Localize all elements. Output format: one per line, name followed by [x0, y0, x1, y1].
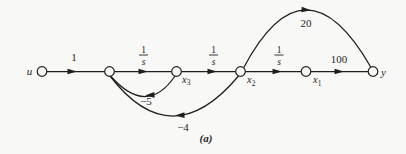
node-u	[37, 67, 47, 77]
fraction-denominator: s	[212, 57, 216, 67]
edge-x3-sum-feedback	[111, 76, 176, 97]
arrowhead-x3-x2	[208, 69, 218, 75]
node-label-x3-subscript: 3	[187, 78, 191, 87]
node-x1	[301, 67, 311, 77]
arrowhead-x1-y	[335, 69, 345, 75]
fraction-numerator: 1	[211, 45, 216, 55]
gain-label-x3-x2: 1 s	[209, 45, 218, 67]
gain-label-sum-x3: 1 s	[139, 45, 148, 67]
node-x2	[236, 67, 246, 77]
gain-label-x2-sum-feedback: −4	[177, 121, 189, 133]
edge-x2-sum-feedback	[110, 76, 239, 116]
signal-flow-graph-figure: 1 1 s 1 s 1 s 100 20 −5 −4 u x3 x2 x1 y	[0, 0, 406, 154]
arrowhead-u-sum	[68, 69, 78, 75]
arrowhead-x2-sum-feedback	[175, 112, 185, 118]
node-label-x2: x2	[246, 74, 256, 88]
arrowhead-x2-y-arc	[301, 7, 311, 13]
gain-label-x3-sum-feedback: −5	[140, 95, 152, 107]
fraction-numerator: 1	[277, 45, 282, 55]
figure-canvas: 1 1 s 1 s 1 s 100 20 −5 −4 u x3 x2 x1 y	[0, 0, 406, 154]
node-label-u: u	[27, 65, 33, 77]
edges	[42, 10, 373, 116]
fraction-denominator: s	[277, 57, 281, 67]
node-sum	[105, 67, 115, 77]
arrowhead-sum-x3	[139, 69, 149, 75]
node-label-y: y	[380, 66, 386, 78]
gain-label-x1-y: 100	[331, 53, 348, 65]
node-label-x3: x3	[181, 74, 191, 88]
arrowhead-x2-x1	[273, 69, 283, 75]
node-label-x2-subscript: 2	[252, 79, 256, 88]
node-x3	[172, 67, 182, 77]
node-labels: u x3 x2 x1 y	[27, 65, 386, 88]
node-label-x1-subscript: 1	[318, 79, 322, 88]
node-y	[368, 67, 378, 77]
gain-label-x2-y-arc: 20	[301, 17, 313, 29]
figure-caption: (a)	[200, 132, 213, 145]
fraction-denominator: s	[142, 57, 146, 67]
node-label-x1: x1	[312, 74, 322, 88]
gain-label-x2-x1: 1 s	[275, 45, 284, 67]
gain-label-u-sum: 1	[71, 51, 77, 63]
fraction-numerator: 1	[141, 45, 146, 55]
